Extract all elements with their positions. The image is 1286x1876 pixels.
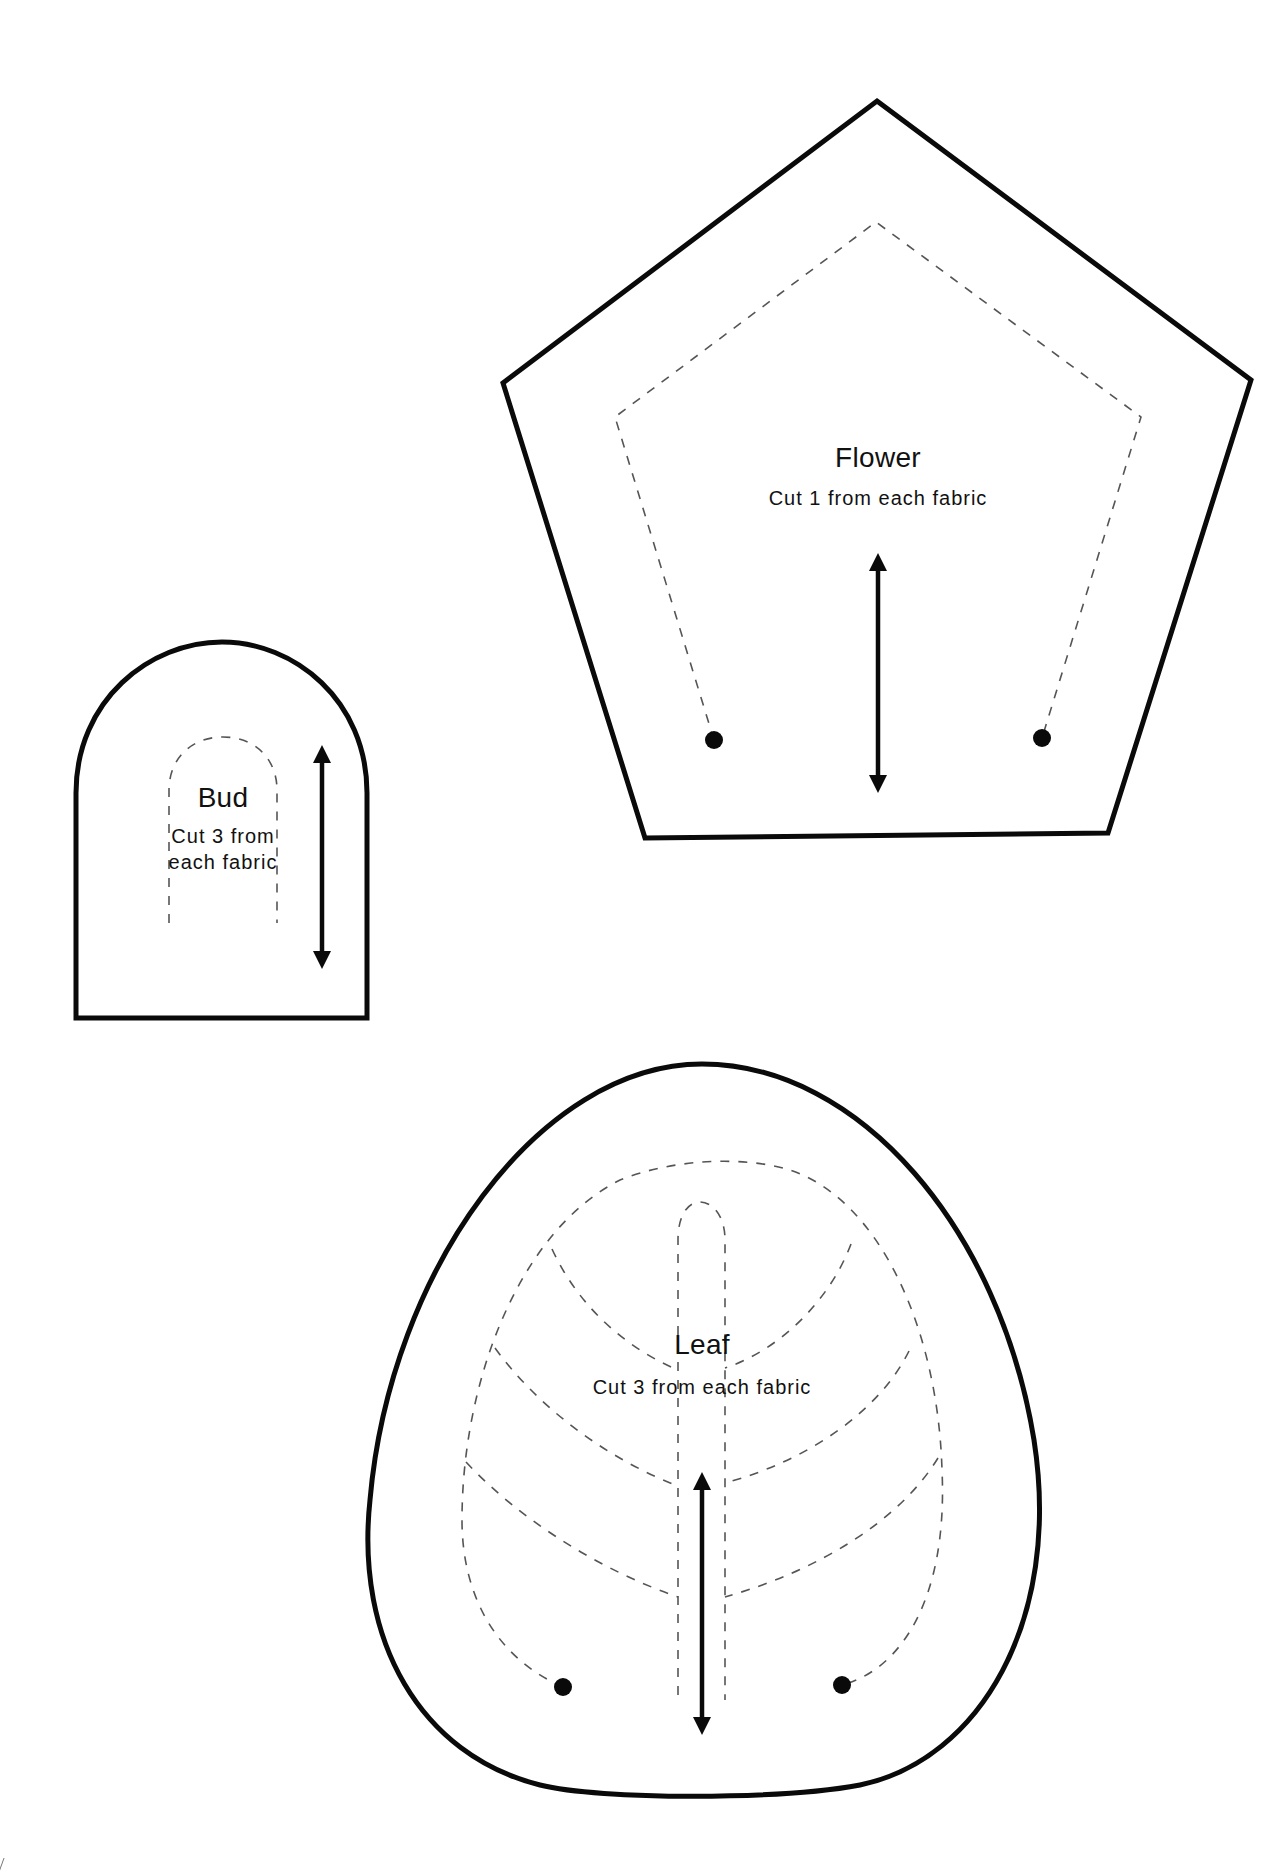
flower-right-dot-icon <box>1033 729 1051 747</box>
flower-instruction: Cut 1 from each fabric <box>769 485 988 512</box>
bud-title: Bud <box>198 784 249 812</box>
leaf-right-dot-icon <box>833 1676 851 1694</box>
leaf-vein-right-1 <box>725 1244 851 1368</box>
leaf-vein-right-2 <box>725 1351 909 1483</box>
leaf-instruction: Cut 3 from each fabric <box>593 1374 812 1401</box>
leaf-piece <box>368 1064 1040 1796</box>
leaf-vein-right-3 <box>725 1458 938 1597</box>
pattern-sheet <box>0 0 1286 1876</box>
flower-title: Flower <box>835 444 921 472</box>
leaf-vein-left-3 <box>466 1462 678 1597</box>
leaf-title: Leaf <box>674 1331 730 1359</box>
bud-instruction-line1: Cut 3 from <box>171 823 274 850</box>
leaf-left-dot-icon <box>554 1678 572 1696</box>
leaf-vein-left-2 <box>495 1348 678 1486</box>
flower-left-dot-icon <box>705 731 723 749</box>
leaf-vein-left-1 <box>552 1249 678 1370</box>
bud-instruction-line2: each fabric <box>169 849 278 876</box>
